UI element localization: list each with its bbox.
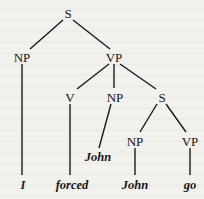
node-np-object: NP xyxy=(107,90,124,105)
node-vp-main: VP xyxy=(106,50,123,65)
edge-np-john xyxy=(99,104,111,148)
leaf-go: go xyxy=(183,178,197,192)
syntax-tree: S NP VP V NP S NP VP I forced John John … xyxy=(0,0,204,199)
leaf-i: I xyxy=(20,178,27,192)
node-vp-embedded: VP xyxy=(182,134,199,149)
edge-vp-v xyxy=(77,64,109,89)
leaf-john-object: John xyxy=(84,150,111,164)
edge-s-np xyxy=(30,20,63,49)
node-s-root: S xyxy=(64,6,71,21)
node-np-subject: NP xyxy=(14,50,31,65)
node-np-embedded: NP xyxy=(127,134,144,149)
node-s-embedded: S xyxy=(158,90,165,105)
edge-s-vp2 xyxy=(166,104,186,132)
node-v: V xyxy=(65,90,75,105)
leaf-john-embedded: John xyxy=(121,178,148,192)
leaf-forced: forced xyxy=(56,178,89,192)
edge-vp-s xyxy=(120,64,156,89)
edge-s-np2 xyxy=(140,104,157,132)
edge-s-vp xyxy=(73,20,110,49)
